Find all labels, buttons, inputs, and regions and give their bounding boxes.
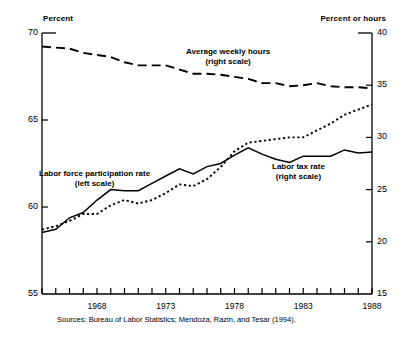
x-tick-1988: 1988 [352,301,392,311]
series-label-labor-force-participation-rate: Labor force participation rate (left sca… [39,169,150,188]
left-tick-60: 60 [16,201,38,211]
series-label-line1: Average weekly hours [186,47,270,57]
series-label-line1: Labor force participation rate [39,169,150,179]
right-tick-35: 35 [377,79,399,89]
series-label-line2: (right scale) [186,57,270,67]
right-tick-20: 20 [377,236,399,246]
data-curves [42,47,372,233]
x-tick-1968: 1968 [77,301,117,311]
left-tick-65: 65 [16,114,38,124]
x-tick-1973: 1973 [146,301,186,311]
right-tick-30: 30 [377,131,399,141]
series-label-line2: (left scale) [39,179,150,189]
right-tick-40: 40 [377,27,399,37]
axis-ticks [42,85,372,294]
chart-figure: Percent Percent or hours 70656055 403530… [0,0,404,337]
x-tick-1978: 1978 [215,301,255,311]
left-axis-title: Percent [43,14,73,23]
series-label-labor-tax-rate: Labor tax rate (right scale) [272,162,325,181]
left-tick-70: 70 [16,27,38,37]
x-tick-1983: 1983 [283,301,323,311]
series-label-line2: (right scale) [272,172,325,182]
series-label-average-weekly-hours: Average weekly hours (right scale) [186,47,270,66]
right-tick-15: 15 [377,288,399,298]
source-note: Sources: Bureau of Labor Statistics; Men… [57,315,296,324]
right-axis-title: Percent or hours [320,14,386,23]
left-tick-55: 55 [16,288,38,298]
right-tick-25: 25 [377,184,399,194]
series-label-line1: Labor tax rate [272,162,325,172]
series-solid [42,148,372,233]
